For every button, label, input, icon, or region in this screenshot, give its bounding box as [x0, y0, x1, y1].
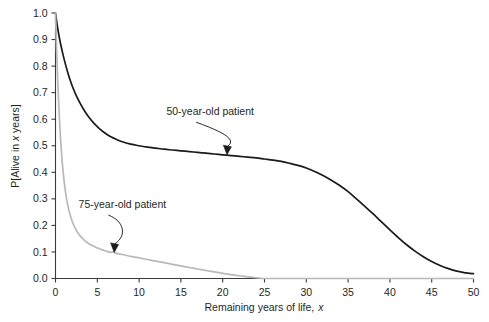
annotation-label-75-year-old: 75-year-old patient [79, 198, 167, 210]
y-tick-marks [52, 13, 56, 279]
x-tick-label: 35 [342, 286, 354, 298]
y-axis-title: P[Alive in x years] [9, 104, 21, 188]
annotation-leader-line [196, 122, 230, 146]
y-axis-title-prefix: P[Alive in [9, 141, 21, 188]
x-tick-label: 15 [175, 286, 187, 298]
x-tick-label: 20 [217, 286, 229, 298]
series-line-75-year-old [56, 13, 474, 279]
x-axis-title: Remaining years of life,x [205, 301, 325, 313]
axes-group [56, 13, 474, 279]
survival-curve-chart: 0.00.10.20.30.40.50.60.70.80.91.0 051015… [0, 0, 489, 322]
y-tick-label: 1.0 [33, 7, 48, 19]
annotation-arrowhead [111, 243, 119, 253]
annotation-arrowhead [223, 145, 231, 155]
series-group [56, 13, 474, 279]
y-axis-title-suffix: years] [9, 104, 21, 136]
annotation-group: 50-year-old patient75-year-old patient [79, 105, 254, 252]
y-tick-label: 0.6 [33, 113, 48, 125]
x-tick-label: 10 [133, 286, 145, 298]
y-tick-label: 0.3 [33, 192, 48, 204]
y-tick-label: 0.7 [33, 86, 48, 98]
x-tick-label: 30 [300, 286, 312, 298]
y-tick-label: 0.4 [33, 166, 48, 178]
y-tick-labels: 0.00.10.20.30.40.50.60.70.80.91.0 [33, 7, 48, 285]
x-tick-label: 25 [259, 286, 271, 298]
y-tick-label: 0.0 [33, 272, 48, 284]
series-line-50-year-old [56, 13, 474, 274]
x-tick-label: 40 [384, 286, 396, 298]
figure-container: 0.00.10.20.30.40.50.60.70.80.91.0 051015… [0, 0, 489, 322]
y-tick-label: 0.2 [33, 219, 48, 231]
annotation-leader-line [108, 215, 122, 244]
x-axis-title-text: Remaining years of life, [205, 301, 315, 313]
x-tick-labels: 05101520253035404550 [53, 286, 480, 298]
y-tick-label: 0.9 [33, 33, 48, 45]
y-tick-label: 0.5 [33, 139, 48, 151]
x-axis-title-variable: x [317, 301, 324, 313]
x-tick-label: 0 [53, 286, 59, 298]
x-tick-label: 50 [468, 286, 480, 298]
y-tick-label: 0.8 [33, 60, 48, 72]
y-tick-label: 0.1 [33, 246, 48, 258]
x-tick-label: 5 [94, 286, 100, 298]
annotation-label-50-year-old: 50-year-old patient [166, 105, 254, 117]
x-tick-label: 45 [426, 286, 438, 298]
